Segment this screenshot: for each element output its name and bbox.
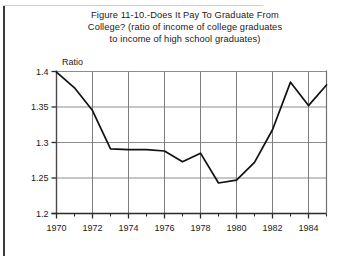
x-tick-label: 1974 xyxy=(118,223,138,233)
x-tick-labels: 19701972197419761978198019821984 xyxy=(46,223,318,233)
y-tick-labels: 1.21.251.31.351.4 xyxy=(31,67,49,219)
y-tick-label: 1.35 xyxy=(31,102,49,112)
figure-page: Figure 11-10.-Does It Pay To Graduate Fr… xyxy=(0,0,344,256)
x-tick-label: 1972 xyxy=(82,223,102,233)
x-tick-label: 1980 xyxy=(226,223,246,233)
figure-footnote xyxy=(30,247,340,256)
data-series-line xyxy=(57,72,327,183)
line-chart: 1.21.251.31.351.4 1970197219741976197819… xyxy=(0,0,344,256)
y-tick-label: 1.25 xyxy=(31,173,49,183)
x-tick-label: 1970 xyxy=(46,223,66,233)
x-tick-label: 1984 xyxy=(298,223,318,233)
x-tick-label: 1978 xyxy=(190,223,210,233)
y-tick-label: 1.2 xyxy=(36,209,49,219)
x-tick-label: 1976 xyxy=(154,223,174,233)
x-tick-label: 1982 xyxy=(262,223,282,233)
y-tick-label: 1.4 xyxy=(36,67,49,77)
y-tick-label: 1.3 xyxy=(36,138,49,148)
